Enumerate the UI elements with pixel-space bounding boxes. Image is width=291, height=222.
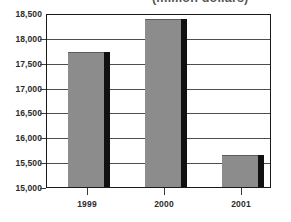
bar-shadow bbox=[104, 52, 110, 187]
x-axis-label-1999: 1999 bbox=[57, 199, 117, 209]
y-axis-tick-label: 15,000 bbox=[0, 183, 42, 193]
bar-top-edge bbox=[222, 155, 258, 156]
bar-1999 bbox=[68, 52, 104, 187]
bar-shadow bbox=[181, 19, 187, 187]
y-axis-tick-label: 17,500 bbox=[0, 59, 42, 69]
bar-2000 bbox=[145, 19, 181, 187]
x-axis-tick-mark bbox=[164, 188, 165, 195]
y-axis-tick-label: 17,000 bbox=[0, 84, 42, 94]
x-axis-label-2001: 2001 bbox=[211, 199, 271, 209]
y-axis-tick-mark bbox=[40, 188, 46, 189]
plot-area bbox=[46, 14, 271, 188]
x-axis-label-2000: 2000 bbox=[134, 199, 194, 209]
bar-shadow bbox=[258, 155, 264, 187]
x-axis-tick-mark bbox=[241, 188, 242, 195]
bar-top-edge bbox=[145, 19, 181, 20]
y-axis-tick-label: 18,500 bbox=[0, 9, 42, 19]
x-axis-tick-mark bbox=[87, 188, 88, 195]
y-axis-tick-label: 16,000 bbox=[0, 133, 42, 143]
bar-top-edge bbox=[68, 52, 104, 53]
y-axis-tick-label: 18,000 bbox=[0, 34, 42, 44]
bar-2001 bbox=[222, 155, 258, 187]
y-axis-tick-label: 16,500 bbox=[0, 108, 42, 118]
bar-chart: (million dollars) 18,500 18,000 17,500 1… bbox=[0, 0, 291, 222]
y-axis-tick-label: 15,500 bbox=[0, 158, 42, 168]
chart-title: (million dollars) bbox=[152, 0, 291, 5]
